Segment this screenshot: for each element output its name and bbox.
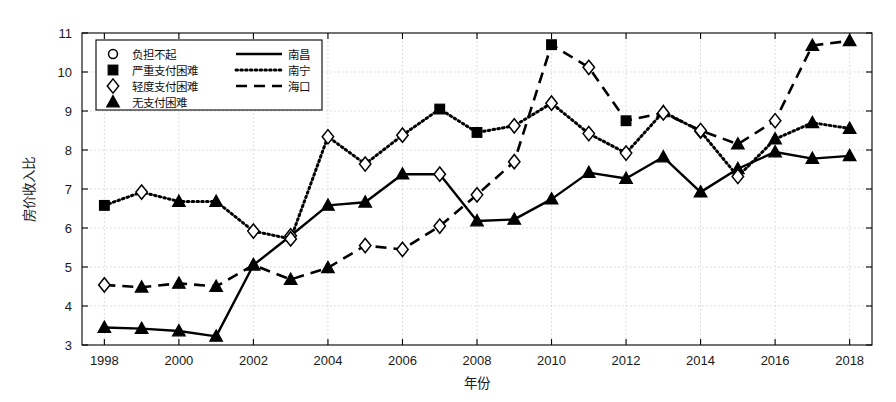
y-axis-title: 房价收入比 <box>21 157 37 222</box>
y-axis-tick-label: 8 <box>65 143 72 158</box>
y-axis-tick-label: 9 <box>65 104 72 119</box>
y-axis-tick-label: 3 <box>65 338 72 353</box>
data-point-marker <box>472 128 482 138</box>
legend-label-triangle: 无支付困难 <box>132 96 187 110</box>
legend-marker-square <box>108 65 118 75</box>
legend-label-square: 严重支付困难 <box>132 64 198 78</box>
data-point-marker <box>100 201 110 211</box>
legend-label-海口: 海口 <box>288 80 310 94</box>
y-axis-tick-label: 7 <box>65 182 72 197</box>
x-axis-tick-label: 2010 <box>537 353 566 368</box>
y-axis-tick-label: 11 <box>59 26 73 41</box>
line-chart: 3456789101119982000200220042006200820102… <box>0 0 896 402</box>
y-axis-tick-label: 4 <box>65 299 72 314</box>
x-axis-tick-label: 2018 <box>835 353 864 368</box>
x-axis-tick-label: 2014 <box>686 353 715 368</box>
x-axis-title: 年份 <box>464 375 491 391</box>
legend-label-南昌: 南昌 <box>288 48 310 62</box>
legend-label-circle: 负担不起 <box>132 48 177 62</box>
legend-label-diamond: 轻度支付困难 <box>132 80 198 94</box>
legend-label-南宁: 南宁 <box>288 64 310 78</box>
x-axis-tick-label: 2012 <box>612 353 641 368</box>
data-point-marker <box>435 104 445 114</box>
chart-figure: 3456789101119982000200220042006200820102… <box>0 0 896 402</box>
y-axis-tick-label: 5 <box>65 260 72 275</box>
y-axis-tick-label: 10 <box>58 65 72 80</box>
x-axis-tick-label: 2016 <box>761 353 790 368</box>
x-axis-tick-label: 2002 <box>239 353 268 368</box>
legend-marker-circle <box>109 50 118 59</box>
x-axis-tick-label: 2008 <box>463 353 492 368</box>
data-point-marker <box>621 116 631 126</box>
x-axis-tick-label: 1998 <box>90 353 119 368</box>
y-axis-tick-label: 6 <box>65 221 72 236</box>
x-axis-tick-label: 2004 <box>313 353 342 368</box>
x-axis-tick-label: 2000 <box>164 353 193 368</box>
x-axis-tick-label: 2006 <box>388 353 417 368</box>
data-point-marker <box>547 40 557 50</box>
